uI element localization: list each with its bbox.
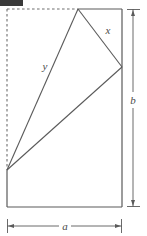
triangle-side-hypotenuse <box>7 67 122 170</box>
label-a: a <box>62 220 68 232</box>
dimension-b-arrow-top <box>131 10 135 16</box>
dimension-a-arrow-right <box>115 224 121 228</box>
label-b: b <box>130 94 136 106</box>
geometry-diagram-figure: b a x y <box>0 0 147 236</box>
triangle-side-y <box>7 9 78 170</box>
label-x: x <box>105 24 111 36</box>
label-y: y <box>42 60 48 72</box>
triangle-side-x <box>78 9 122 67</box>
dimension-b-arrow-bottom <box>131 200 135 206</box>
geometry-canvas: b a x y <box>0 0 147 236</box>
dimension-a-arrow-left <box>8 224 14 228</box>
